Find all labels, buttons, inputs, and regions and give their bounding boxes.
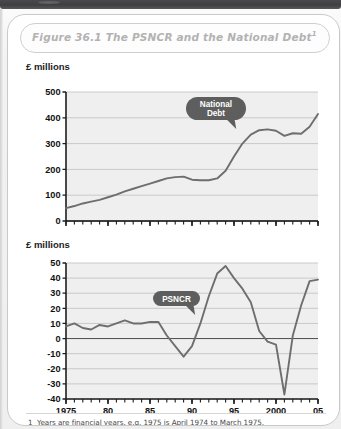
bottom-chart-y-unit-label: £ millions — [26, 239, 70, 250]
callout-label-line2: Debt — [207, 109, 225, 118]
y-tick-label: 40 — [50, 273, 60, 283]
x-tick-label: 05 — [313, 228, 323, 229]
footnote-text: Years are financial years, e.g. 1975 is … — [37, 418, 264, 426]
page-left-edge-shadow — [0, 9, 3, 429]
x-tick-label: 1975 — [56, 228, 76, 229]
y-tick-label: 20 — [50, 304, 60, 314]
footnote-divider — [26, 413, 326, 414]
x-tick-label: 85 — [145, 228, 155, 229]
figure-title-footnote-marker: 1 — [312, 30, 317, 38]
y-tick-label: 200 — [45, 165, 60, 175]
y-tick-label: 0 — [55, 216, 60, 226]
y-tick-label: 500 — [45, 87, 60, 97]
footnote-note: 1 Years are financial years, e.g. 1975 i… — [28, 418, 264, 426]
x-tick-label: 95 — [229, 228, 239, 229]
y-tick-label: 300 — [45, 139, 60, 149]
national-debt-chart: 0100200300400500197580859095200005Nation… — [16, 73, 334, 229]
callout-label-line1: National — [200, 100, 232, 109]
x-tick-label: 80 — [103, 228, 113, 229]
plot-background — [66, 263, 318, 399]
figure-card: Figure 36.1 The PSNCR and the National D… — [7, 14, 340, 426]
y-tick-label: 50 — [50, 258, 60, 268]
x-tick-label: 2000 — [266, 228, 286, 229]
device-top-bezel — [0, 0, 341, 9]
top-chart-y-unit-label: £ millions — [26, 61, 70, 72]
y-tick-label: 0 — [55, 334, 60, 344]
y-tick-label: -10 — [47, 349, 60, 359]
y-tick-label: -30 — [47, 379, 60, 389]
figure-title: Figure 36.1 The PSNCR and the National D… — [32, 30, 317, 43]
y-tick-label: 10 — [50, 319, 60, 329]
y-tick-label: -40 — [47, 394, 60, 404]
y-tick-label: 400 — [45, 113, 60, 123]
y-tick-label: -20 — [47, 364, 60, 374]
figure-title-text: Figure 36.1 The PSNCR and the National D… — [32, 31, 312, 43]
footnote-marker: 1 — [28, 418, 33, 426]
y-tick-label: 30 — [50, 288, 60, 298]
callout-label: PSNCR — [162, 295, 191, 304]
y-tick-label: 100 — [45, 190, 60, 200]
x-tick-label: 90 — [187, 228, 197, 229]
bezel-highlight — [38, 1, 60, 4]
psncr-chart: -40-30-20-100102030405019758085909520000… — [16, 251, 334, 415]
